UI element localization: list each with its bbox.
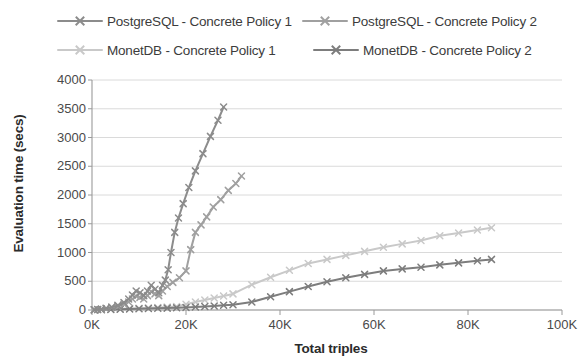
x-tick-label: 60K — [344, 318, 404, 331]
x-axis-title: Total triples — [92, 341, 570, 356]
data-point-marker — [144, 288, 150, 294]
x-tick-label: 40K — [250, 318, 310, 331]
x-tick-label: 0K — [62, 318, 122, 331]
series-postgresql-concrete-policy-2 — [91, 173, 244, 313]
data-point-marker — [210, 204, 216, 210]
data-point-marker — [225, 187, 231, 193]
series-line — [94, 176, 241, 310]
x-tick-label: 20K — [156, 318, 216, 331]
x-tick-label: 100K — [532, 318, 582, 331]
data-point-marker — [204, 214, 210, 220]
gridlines — [92, 80, 562, 310]
data-point-marker — [238, 173, 244, 179]
data-point-marker — [233, 181, 239, 187]
series-monetdb-concrete-policy-1 — [91, 225, 494, 313]
data-point-marker — [218, 197, 224, 203]
x-axis-tick-labels: 0K20K40K60K80K100K — [0, 316, 570, 338]
series-line — [94, 228, 491, 310]
data-point-marker — [170, 279, 176, 285]
data-point-marker — [198, 222, 204, 228]
data-point-marker — [176, 275, 182, 281]
x-tick-label: 80K — [438, 318, 498, 331]
